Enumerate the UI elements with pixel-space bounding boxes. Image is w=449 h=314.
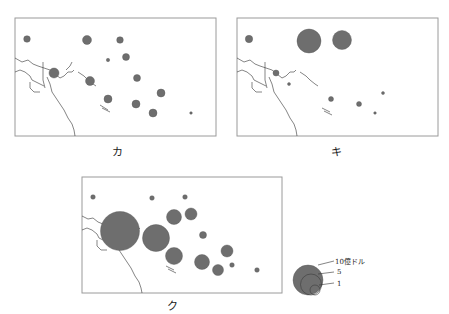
data-bubble bbox=[382, 92, 385, 95]
size-legend: 10億ドル 5 1 bbox=[293, 257, 365, 295]
data-bubble bbox=[245, 35, 252, 42]
data-bubble bbox=[221, 245, 233, 257]
map-label-ku: ク bbox=[167, 300, 178, 313]
data-bubble bbox=[329, 97, 334, 102]
data-bubble bbox=[134, 75, 141, 82]
data-bubble bbox=[190, 112, 193, 115]
data-bubble bbox=[143, 225, 170, 252]
map-ki: キ bbox=[237, 18, 438, 159]
data-bubble bbox=[86, 77, 95, 86]
data-bubble bbox=[24, 36, 31, 43]
data-bubble bbox=[123, 54, 130, 61]
map-ka: カ bbox=[15, 18, 216, 159]
data-bubble bbox=[49, 68, 59, 78]
map-label-ki: キ bbox=[331, 146, 342, 159]
data-bubble bbox=[101, 212, 140, 251]
legend-label-10: 10億ドル bbox=[335, 257, 365, 266]
legend-label-1: 1 bbox=[337, 280, 341, 288]
map-label-ka: カ bbox=[112, 146, 123, 159]
data-bubble bbox=[273, 70, 279, 76]
data-bubble bbox=[104, 95, 112, 103]
data-bubble bbox=[132, 100, 140, 108]
data-bubble bbox=[297, 29, 321, 53]
data-bubble bbox=[195, 255, 210, 270]
data-bubble bbox=[150, 196, 155, 201]
legend-leader-10 bbox=[318, 261, 334, 265]
data-bubble bbox=[183, 195, 188, 200]
data-bubble bbox=[230, 263, 235, 268]
data-bubble bbox=[357, 102, 362, 107]
data-bubble bbox=[91, 195, 96, 200]
data-bubble bbox=[200, 232, 207, 239]
map-figure: カ キ ク bbox=[0, 0, 449, 314]
legend-label-5: 5 bbox=[337, 268, 341, 276]
data-bubble bbox=[83, 36, 92, 45]
map-ku: ク bbox=[82, 177, 282, 313]
legend-circle-10 bbox=[293, 265, 323, 295]
data-bubble bbox=[117, 37, 124, 44]
data-bubble bbox=[149, 109, 157, 117]
data-bubble bbox=[374, 112, 377, 115]
map-frame bbox=[15, 18, 216, 136]
data-bubble bbox=[166, 248, 183, 265]
data-bubble bbox=[157, 89, 165, 97]
data-bubble bbox=[255, 268, 260, 273]
data-bubble bbox=[333, 31, 352, 50]
data-bubble bbox=[213, 265, 224, 276]
data-bubble bbox=[167, 210, 182, 225]
data-bubble bbox=[106, 58, 109, 61]
data-bubble bbox=[185, 208, 197, 220]
data-bubble bbox=[288, 83, 291, 86]
